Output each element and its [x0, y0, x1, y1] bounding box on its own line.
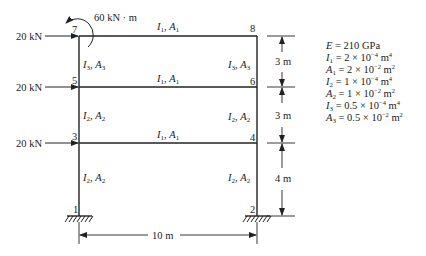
- prop-E: E = 210 GPa: [325, 40, 380, 51]
- node-5: 5: [72, 75, 77, 86]
- member-label-col-left-top: I3, A3: [82, 59, 106, 72]
- member-label-col-right-mid: I2, A2: [227, 111, 251, 124]
- prop-A3: A3 = 0.5 × 10−2 m2: [325, 111, 403, 125]
- prop-I2: I2 = 1 × 10−4 m4: [325, 75, 393, 89]
- node-3: 3: [72, 131, 77, 142]
- frame-diagram: 20 kN 20 kN 20 kN 60 kN · m 7 8 5 6 3 4 …: [0, 0, 426, 256]
- member-label-col-left-mid: I2, A2: [82, 110, 106, 123]
- dim-story-low: 4 m: [275, 173, 291, 184]
- member-label-col-right-top: I3, A3: [227, 59, 251, 72]
- member-label-col-left-low: I2, A2: [82, 172, 106, 185]
- node-8: 8: [250, 23, 255, 34]
- node-2: 2: [250, 204, 255, 215]
- dim-span: 10 m: [152, 230, 173, 241]
- load-label-top: 20 kN: [16, 31, 42, 42]
- member-label-beam-top: I1, A1: [156, 21, 180, 34]
- fixed-support-left: [65, 216, 93, 222]
- horizontal-loads: [45, 36, 78, 143]
- dim-story-top: 3 m: [275, 56, 291, 67]
- member-label-beam-mid: I1, A1: [156, 73, 180, 86]
- node-7: 7: [72, 24, 77, 35]
- prop-I3: I3 = 0.5 × 10−4 m4: [325, 99, 401, 113]
- properties-list: E = 210 GPa I1 = 2 × 10−4 m4 A1 = 2 × 10…: [325, 40, 403, 125]
- member-label-col-right-low: I2, A2: [227, 172, 251, 185]
- node-4: 4: [250, 132, 256, 143]
- fixed-support-right: [243, 216, 271, 222]
- prop-A1: A1 = 2 × 10−2 m2: [325, 63, 395, 77]
- moment-label: 60 kN · m: [94, 12, 137, 23]
- dim-story-mid: 3 m: [275, 110, 291, 121]
- member-label-beam-low: I1, A1: [156, 129, 180, 142]
- node-1: 1: [73, 204, 78, 215]
- node-6: 6: [250, 76, 255, 87]
- prop-I1: I1 = 2 × 10−4 m4: [325, 51, 393, 65]
- load-label-mid: 20 kN: [16, 82, 42, 93]
- load-label-low: 20 kN: [16, 138, 42, 149]
